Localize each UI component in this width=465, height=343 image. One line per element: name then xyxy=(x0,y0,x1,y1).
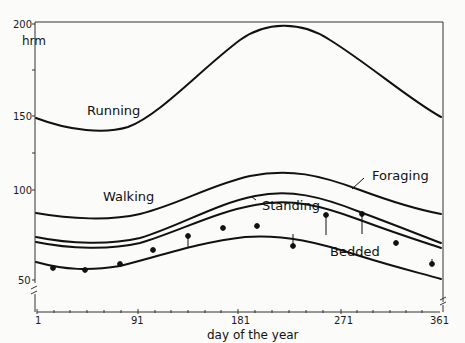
running-label: Running xyxy=(87,103,140,118)
y-tick-100: 100 xyxy=(13,185,32,196)
walking-label: Walking xyxy=(103,189,154,204)
y-tick-50: 50 xyxy=(18,275,31,286)
axis-break-marks xyxy=(31,286,446,312)
x-tick-271: 271 xyxy=(334,315,353,326)
standing-curve xyxy=(36,202,441,248)
y-tick-150: 150 xyxy=(13,111,32,122)
y-axis-title: hrm xyxy=(22,34,46,48)
activity-heart-rate-chart: 200 150 100 50 hrm 1 91 181 271 361 day … xyxy=(0,0,465,343)
bedded-label: Bedded xyxy=(330,244,380,259)
y-tick-200: 200 xyxy=(13,19,32,30)
x-axis-title: day of the year xyxy=(207,328,299,342)
foraging-pointer xyxy=(352,178,364,189)
standing-pointer xyxy=(252,197,256,200)
x-tick-181: 181 xyxy=(231,315,250,326)
standing-label: Standing xyxy=(262,198,320,213)
x-tick-361: 361 xyxy=(430,315,449,326)
x-tick-1: 1 xyxy=(35,315,41,326)
foraging-label: Foraging xyxy=(372,168,429,183)
x-tick-91: 91 xyxy=(131,315,144,326)
